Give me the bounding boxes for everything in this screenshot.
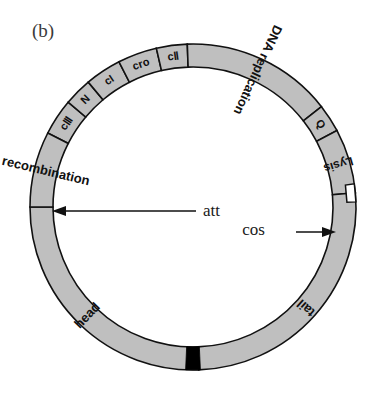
segment-label-cII: cⅡ (167, 49, 180, 62)
att-callout: att (52, 201, 220, 220)
genome-segment-tail (198, 193, 356, 370)
att-arrowhead (52, 206, 66, 216)
cos-step-notch (345, 184, 355, 202)
att-label: att (203, 201, 220, 220)
att-band (186, 347, 201, 370)
att-site-marker (186, 347, 201, 370)
cos-callout: cos (242, 220, 336, 239)
panel-label: (b) (32, 20, 54, 42)
lambda-genome-circular-map: (b) cⅢNcIcrocⅡDNA replicationQLysistailh… (0, 0, 386, 396)
cos-label: cos (242, 220, 265, 239)
figure-container: (b) cⅢNcIcrocⅡDNA replicationQLysistailh… (0, 0, 386, 396)
genome-segment-head (30, 207, 199, 370)
